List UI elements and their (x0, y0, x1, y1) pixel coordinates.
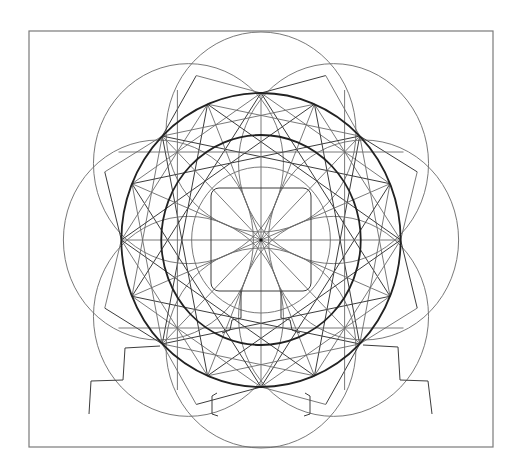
rosette-tie-line (196, 76, 261, 93)
right-stepped-outline (363, 345, 432, 414)
center-point (259, 238, 262, 241)
rosette-tie-line (162, 344, 196, 405)
rosette-tie-line (261, 387, 326, 404)
rosette-tie-line (105, 172, 122, 240)
rosette-tie-line (360, 136, 417, 172)
rosette-tie-line (326, 76, 360, 137)
rosette-tie-line (261, 76, 326, 93)
rosette-tie-line (105, 308, 162, 344)
stepped-outlines (89, 291, 432, 416)
left-stepped-outline (89, 346, 160, 414)
rosette-tie-line (105, 136, 162, 172)
rosette-tie-line (401, 240, 418, 308)
rosette-tie-line (105, 240, 122, 308)
geometric-construction-drawing (0, 0, 519, 468)
rosette-tie-line (196, 387, 261, 404)
rosette-tie-line (401, 172, 418, 240)
rosette-tie-line (162, 76, 196, 137)
rosette-tie-line (360, 308, 417, 344)
rosette-tie-line (326, 344, 360, 405)
